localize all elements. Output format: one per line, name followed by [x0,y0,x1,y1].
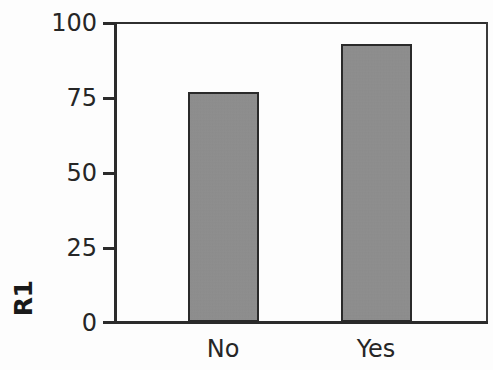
plot-frame-right-line [486,22,488,324]
bar-chart: R1 100 75 50 25 0 No Yes [0,0,493,370]
x-tick-label-yes: Yes [306,337,446,361]
plot-frame-top-line [114,22,488,24]
y-tick-label-0: 0 [37,311,97,335]
x-axis-line [114,321,488,324]
y-tick-label-50: 50 [37,161,97,185]
y-tick-label-75: 75 [37,86,97,110]
y-axis-line [114,22,117,324]
y-axis-title-label: R1 [10,280,39,316]
bar-no [188,92,259,323]
y-tick-label-100: 100 [37,11,97,35]
x-tick-label-no: No [153,337,293,361]
bar-yes [341,44,412,323]
y-tick-label-25: 25 [37,236,97,260]
